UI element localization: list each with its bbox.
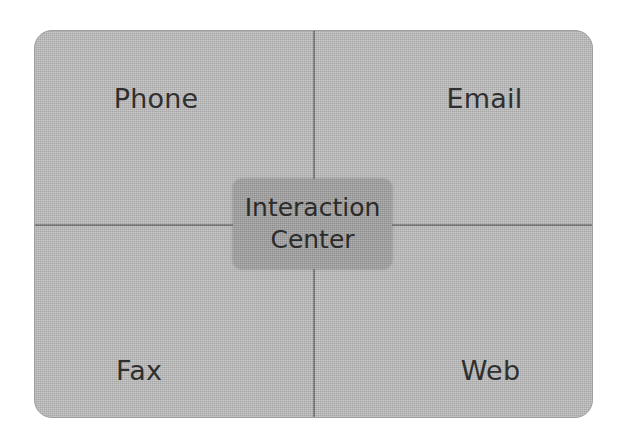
- quadrant-label-phone: Phone: [114, 83, 199, 114]
- hub-label-line1: Interaction: [245, 192, 381, 224]
- quadrant-label-web: Web: [461, 355, 520, 386]
- quadrant-label-fax: Fax: [116, 355, 162, 386]
- diagram-canvas: Phone Email Fax Web Interaction Center: [0, 0, 626, 443]
- interaction-center-hub[interactable]: Interaction Center: [233, 179, 392, 269]
- quadrant-label-email: Email: [447, 83, 523, 114]
- hub-label-line2: Center: [270, 224, 354, 256]
